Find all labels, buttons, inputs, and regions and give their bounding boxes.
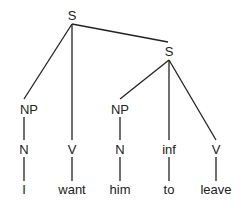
node-inf: inf	[162, 143, 176, 156]
node-root-s: S	[68, 9, 77, 22]
node-np1: NP	[20, 103, 38, 116]
edge-s-s2	[72, 24, 168, 42]
node-v2: V	[212, 143, 221, 156]
word-him: him	[110, 183, 131, 196]
word-to: to	[164, 183, 175, 196]
edge-s2-v2	[169, 60, 216, 140]
edge-s2-np2	[120, 60, 169, 99]
node-np2: NP	[111, 103, 129, 116]
node-sub-s: S	[165, 45, 174, 58]
word-want: want	[58, 183, 85, 196]
node-v1: V	[68, 143, 77, 156]
word-leave: leave	[200, 183, 231, 196]
node-n1: N	[19, 143, 28, 156]
word-i: I	[22, 183, 26, 196]
edge-s-np1	[24, 24, 72, 99]
node-n2: N	[115, 143, 124, 156]
